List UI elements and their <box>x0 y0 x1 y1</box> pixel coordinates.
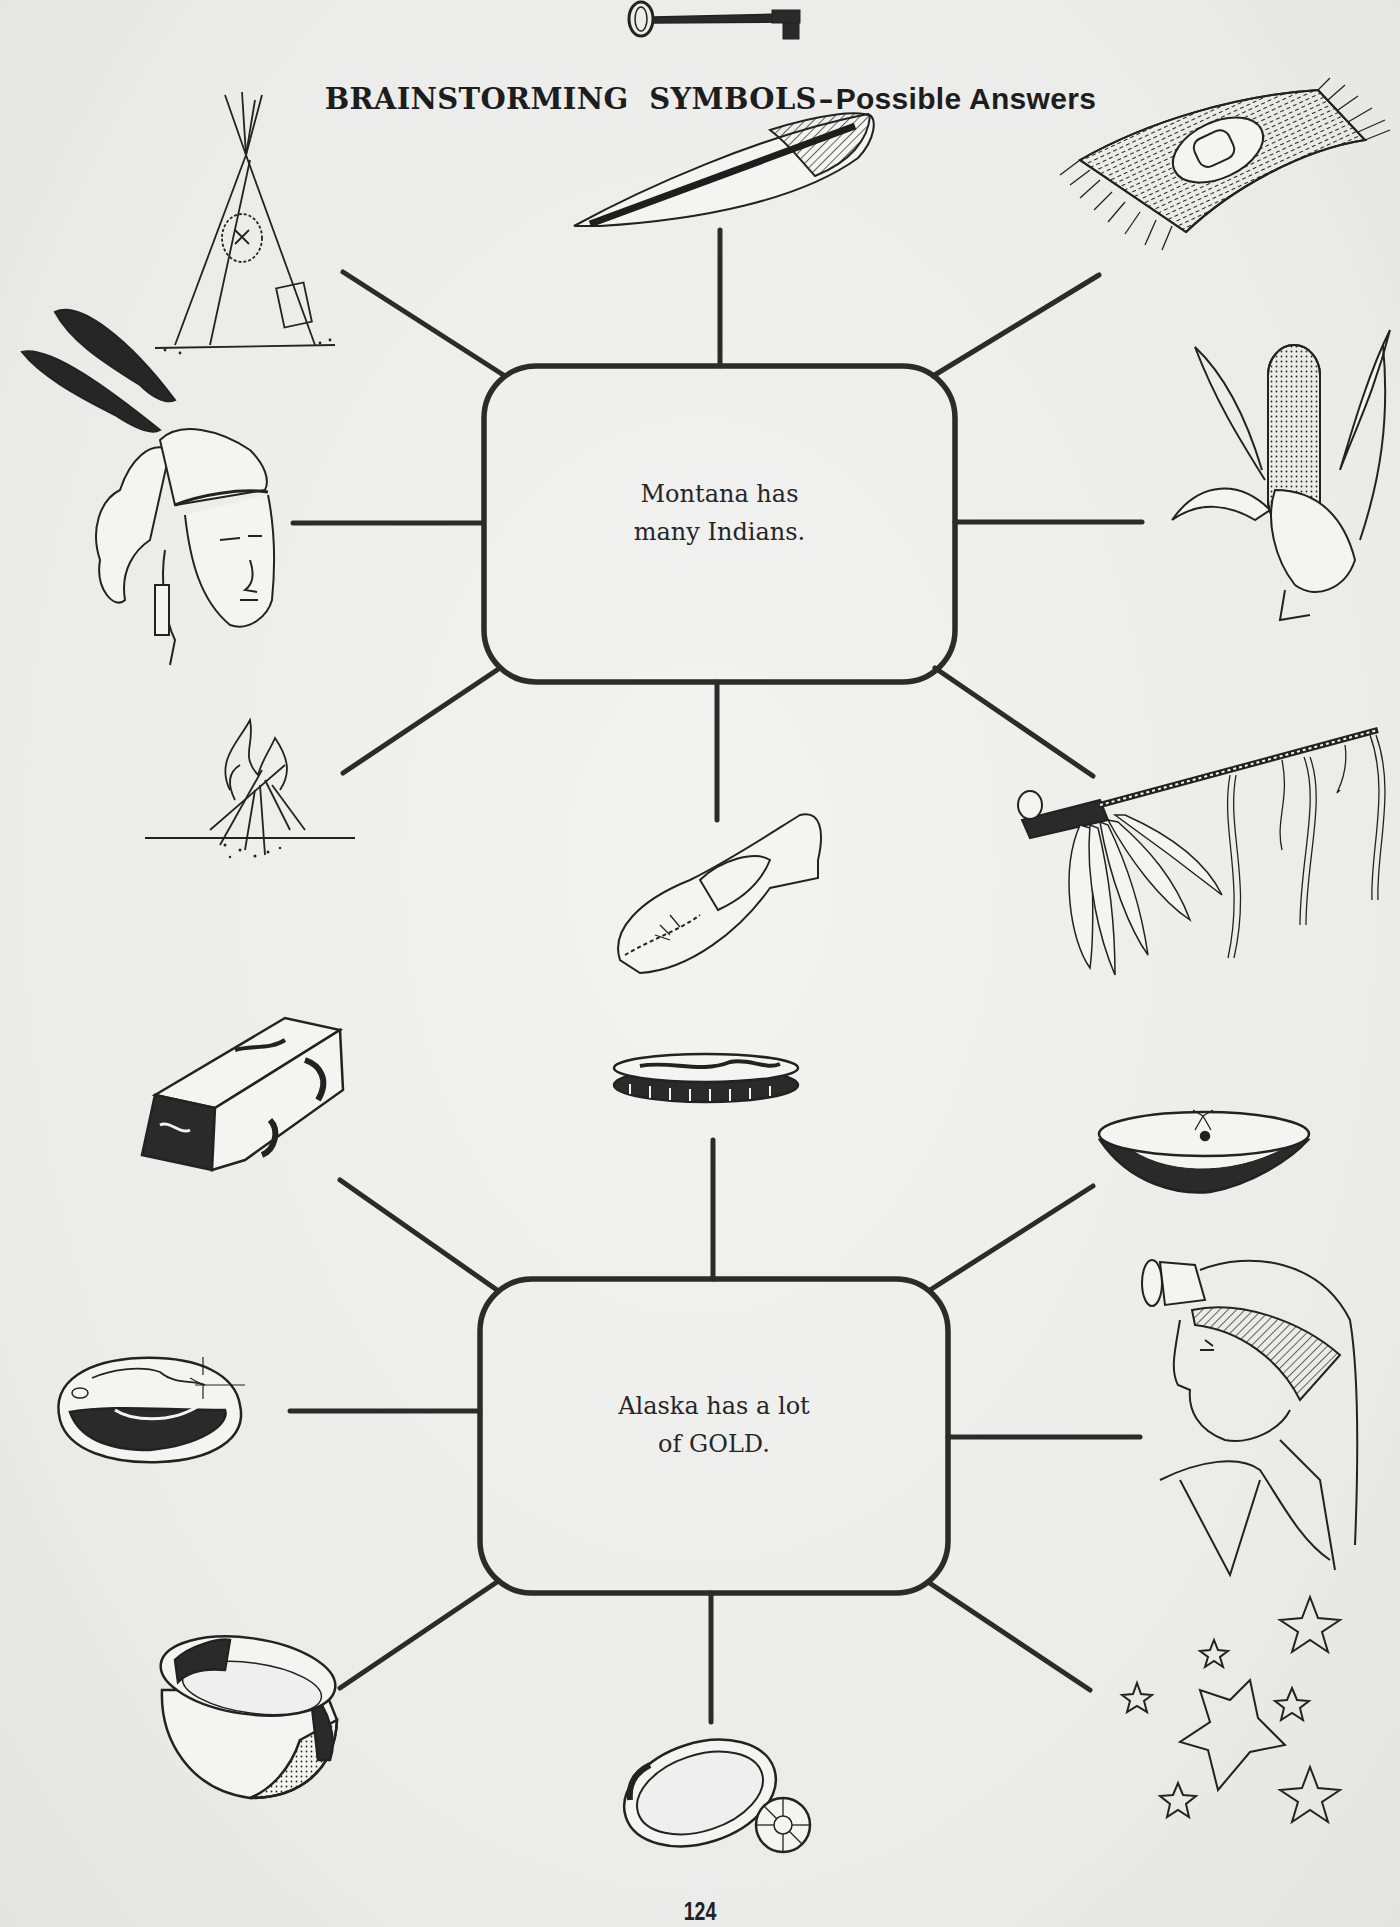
gold-pan-icon <box>1099 1110 1309 1192</box>
skeleton-key-icon <box>629 2 800 39</box>
feather-icon <box>574 113 874 226</box>
montana-text-line-2: many Indians. <box>484 513 955 551</box>
chief-headdress-icon <box>22 310 274 665</box>
corn-icon <box>1172 330 1390 620</box>
page-title: BRAINSTORMING SYMBOLS–Possible Answers <box>0 48 1400 116</box>
alaska-text-line-2: of GOLD. <box>480 1425 948 1463</box>
gold-band-ring-icon <box>156 1626 341 1798</box>
montana-center-text: Montana has many Indians. <box>484 475 955 551</box>
brainstorm-worksheet <box>0 0 1400 1927</box>
gold-nugget-icon <box>58 1357 245 1462</box>
title-main: BRAINSTORMING SYMBOLS <box>325 82 817 116</box>
teepee-icon <box>155 92 335 354</box>
montana-text-line-1: Montana has <box>484 475 955 513</box>
moccasin-icon <box>618 814 821 973</box>
peace-pipe-icon <box>1018 730 1385 975</box>
gold-coin-icon <box>614 1054 798 1102</box>
page-number: 124 <box>154 1897 1246 1926</box>
gold-bar-icon <box>142 1018 343 1170</box>
miner-icon <box>1142 1260 1357 1575</box>
alaska-text-line-1: Alaska has a lot <box>480 1387 948 1425</box>
title-subtitle: Possible Answers <box>836 82 1096 115</box>
alaska-center-text: Alaska has a lot of GOLD. <box>480 1387 948 1463</box>
stars-icon <box>1122 1597 1340 1822</box>
signet-ring-icon <box>610 1721 810 1864</box>
title-separator: – <box>819 82 834 116</box>
campfire-icon <box>145 720 355 858</box>
